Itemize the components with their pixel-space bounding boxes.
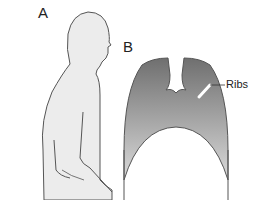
chest-diagram bbox=[124, 58, 228, 200]
ribs-callout-label: Ribs bbox=[226, 78, 248, 90]
panel-label-a: A bbox=[38, 4, 48, 21]
diagram-canvas bbox=[0, 0, 255, 200]
person-silhouette bbox=[42, 12, 112, 200]
panel-label-b: B bbox=[123, 38, 133, 55]
